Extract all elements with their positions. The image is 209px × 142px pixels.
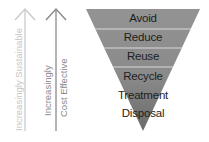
cost-effective-label-line1: Increasingly [43, 65, 53, 116]
level-disposal: Disposal [86, 107, 200, 119]
level-treatment: Treatment [86, 89, 200, 101]
sustainable-label: Increasingly Sustainable [14, 28, 24, 131]
level-recycle: Recycle [86, 70, 200, 82]
cost-effective-label-line2: Cost Effective [59, 59, 69, 117]
level-reuse: Reuse [86, 50, 200, 62]
level-avoid: Avoid [86, 12, 200, 24]
level-reduce: Reduce [86, 31, 200, 43]
